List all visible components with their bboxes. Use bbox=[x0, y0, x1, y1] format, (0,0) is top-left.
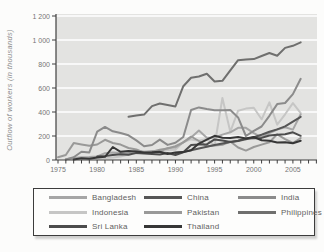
x-tick-label: 2000 bbox=[246, 166, 262, 173]
x-tick-label: 2005 bbox=[285, 166, 301, 173]
legend-label-sri-lanka: Sri Lanka bbox=[92, 222, 128, 231]
legend-label-thailand: Thailand bbox=[187, 222, 219, 231]
legend-item-indonesia: Indonesia bbox=[49, 206, 144, 219]
y-tick-label: 800 bbox=[38, 61, 50, 68]
legend-swatch-philippines bbox=[238, 211, 276, 214]
legend-swatch-pakistan bbox=[144, 211, 182, 214]
legend-label-india: India bbox=[281, 193, 299, 202]
x-tick-label: 1980 bbox=[89, 166, 105, 173]
legend-item-bangladesh: Bangladesh bbox=[49, 191, 144, 204]
legend: BangladeshChinaIndiaIndonesiaPakistanPhi… bbox=[33, 188, 315, 236]
y-tick-label: 1 000 bbox=[32, 37, 50, 44]
x-tick-label: 1975 bbox=[50, 166, 66, 173]
legend-item-sri-lanka: Sri Lanka bbox=[49, 220, 144, 233]
x-tick-label: 1985 bbox=[129, 166, 145, 173]
y-tick-label: 600 bbox=[38, 85, 50, 92]
legend-item-thailand: Thailand bbox=[144, 220, 238, 233]
y-tick-label: 1 200 bbox=[32, 13, 50, 20]
legend-item-china: China bbox=[144, 191, 238, 204]
y-tick-label: 0 bbox=[46, 157, 50, 164]
legend-swatch-sri-lanka bbox=[49, 225, 87, 228]
legend-item-philippines: Philippines bbox=[238, 206, 322, 219]
legend-label-pakistan: Pakistan bbox=[187, 208, 219, 217]
legend-swatch-india bbox=[238, 196, 276, 199]
legend-label-philippines: Philippines bbox=[281, 208, 322, 217]
x-tick-label: 1995 bbox=[207, 166, 223, 173]
legend-item-india: India bbox=[238, 191, 322, 204]
legend-label-china: China bbox=[187, 193, 209, 202]
legend-swatch-china bbox=[144, 196, 182, 199]
legend-item-pakistan: Pakistan bbox=[144, 206, 238, 219]
chart-figure: 02004006008001 0001 20019751980198519901… bbox=[0, 0, 324, 252]
legend-label-indonesia: Indonesia bbox=[92, 208, 129, 217]
legend-swatch-indonesia bbox=[49, 211, 87, 214]
y-tick-label: 200 bbox=[38, 133, 50, 140]
line-chart: 02004006008001 0001 20019751980198519901… bbox=[0, 0, 324, 184]
legend-swatch-bangladesh bbox=[49, 196, 87, 199]
y-tick-label: 400 bbox=[38, 109, 50, 116]
legend-label-bangladesh: Bangladesh bbox=[92, 193, 136, 202]
y-axis-title: Outflow of workers (in thousands) bbox=[5, 29, 14, 151]
legend-swatch-thailand bbox=[144, 225, 182, 228]
x-tick-label: 1990 bbox=[168, 166, 184, 173]
